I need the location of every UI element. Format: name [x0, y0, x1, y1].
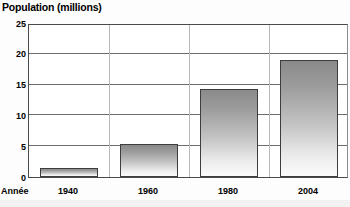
- category-subdivider-1-0: [109, 25, 110, 177]
- x-axis-name-label: Année: [1, 186, 29, 197]
- x-tick-label-2004: 2004: [278, 186, 338, 197]
- category-subdivider-3-0: [269, 25, 270, 177]
- bar-2004: [280, 60, 338, 177]
- y-tick-label-20: 20: [2, 50, 26, 59]
- x-axis-tick-labels: Année 1940196019802004: [0, 186, 350, 200]
- y-tick-label-5: 5: [2, 143, 26, 152]
- bar-chart-figure: Population (millions) 0510152025 Année 1…: [0, 0, 350, 207]
- y-tick-label-25: 25: [2, 20, 26, 29]
- y-tick-label-0: 0: [2, 174, 26, 183]
- bar-1980: [200, 89, 258, 177]
- x-tick-label-1940: 1940: [38, 186, 98, 197]
- y-axis-tick-labels: 0510152025: [0, 0, 26, 207]
- x-tick-label-1980: 1980: [198, 186, 258, 197]
- y-tick-label-15: 15: [2, 81, 26, 90]
- bar-1960: [120, 144, 178, 177]
- x-tick-label-1960: 1960: [118, 186, 178, 197]
- category-subdivider-2-0: [189, 25, 190, 177]
- y-tick-label-10: 10: [2, 112, 26, 121]
- plot-area: [28, 24, 348, 178]
- bar-1940: [40, 168, 98, 177]
- bottom-margin-band: [0, 200, 350, 207]
- gridline-20: [29, 53, 347, 54]
